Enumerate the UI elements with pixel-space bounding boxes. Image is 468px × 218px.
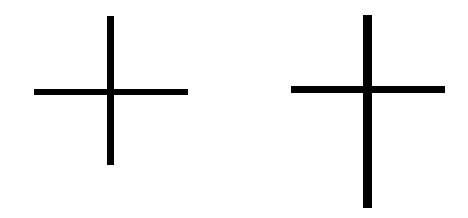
cross-right-vertical-bar <box>363 15 372 208</box>
cross-right-horizontal-bar <box>291 86 445 93</box>
cross-left-horizontal-bar <box>34 89 188 95</box>
